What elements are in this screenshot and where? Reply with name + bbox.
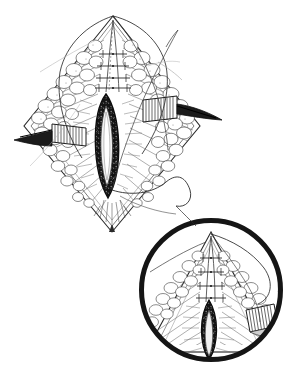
surgical-illustration: Diamond-shaped surgical incision with se… — [0, 0, 299, 379]
illustration-canvas: Diamond-shaped surgical incision with se… — [0, 0, 299, 379]
retractor-left-blade[interactable] — [52, 124, 86, 146]
magnified-apex-inset[interactable] — [141, 220, 281, 360]
